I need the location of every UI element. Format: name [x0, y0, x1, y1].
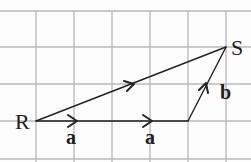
vector-diagram: R S a a b	[0, 0, 251, 162]
point-s-label: S	[231, 37, 243, 59]
vector-b-label: b	[220, 82, 231, 102]
vector-a2-label: a	[145, 127, 155, 147]
vector-a1-label: a	[66, 127, 76, 147]
grid-and-vectors	[0, 0, 251, 162]
point-r-label: R	[15, 111, 30, 133]
